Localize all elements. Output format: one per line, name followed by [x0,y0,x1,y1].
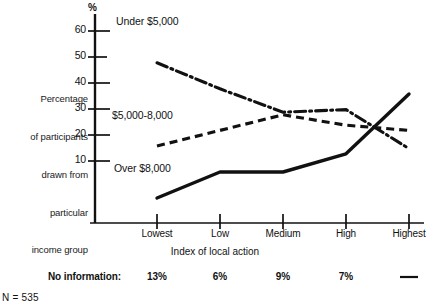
series-label-under-5000: Under $5,000 [116,16,178,28]
no-information-value-high: 7% [311,271,381,282]
series-line-over-8000 [157,94,409,198]
x-tick-label-low: Low [185,228,255,239]
sample-size-note: N = 535 [2,292,39,302]
x-tick-marks [157,214,409,229]
y-tick-marks [88,31,110,161]
series-label-5000-8000: $5,000-8,000 [112,110,173,122]
no-information-value-low: 6% [185,271,255,282]
x-tick-label-highest: Highest [374,228,430,239]
series-label-over-8000: Over $8,000 [114,163,171,175]
no-information-label: No information: [48,271,121,282]
x-tick-label-high: High [311,228,381,239]
x-tick-label-lowest: Lowest [122,228,192,239]
no-information-value-lowest: 13% [122,271,192,282]
x-axis-title: Index of local action [0,246,430,257]
no-information-value-medium: 9% [248,271,318,282]
x-tick-label-medium: Medium [248,228,318,239]
chart-figure: Percentage of participants drawn from pa… [0,0,430,302]
